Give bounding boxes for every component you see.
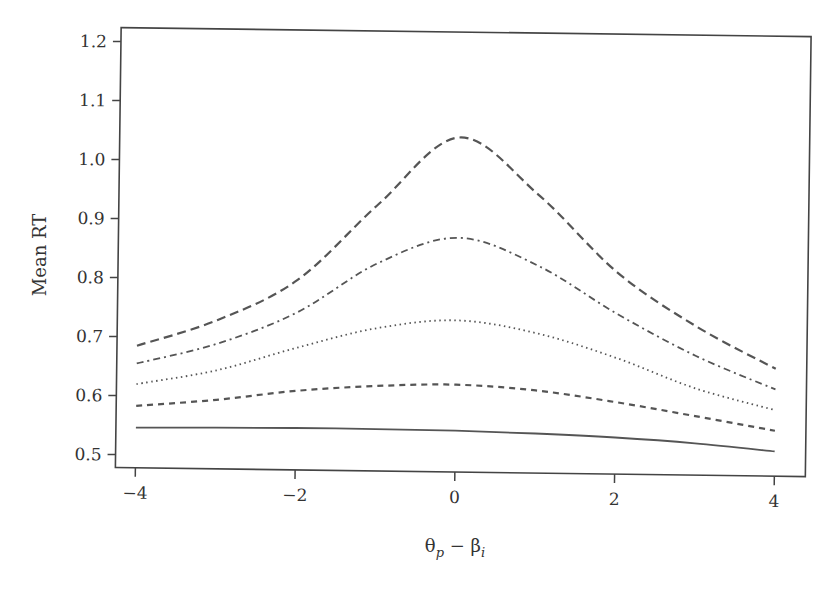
y-tick-label: 0.7 (76, 326, 103, 346)
line-chart: 0.50.60.70.80.91.01.11.2 −4−2024 Mean RT… (0, 0, 827, 596)
x-tick-label: −2 (282, 485, 307, 505)
y-axis-label: Mean RT (29, 214, 50, 296)
x-tick-label: −4 (122, 483, 147, 503)
y-tick-label: 1.2 (80, 31, 107, 51)
x-tick-label: 2 (609, 489, 620, 509)
series-long-dash (137, 133, 779, 369)
series-solid (136, 426, 775, 452)
x-axis-label: θp − βi (425, 535, 485, 560)
x-tick-label: 0 (449, 487, 460, 507)
series-dash-dot (137, 234, 778, 390)
y-tick-label: 1.1 (79, 90, 106, 110)
series-dotted (136, 316, 776, 410)
y-tick-label: 0.5 (74, 444, 101, 464)
y-tick-label: 0.8 (77, 267, 104, 287)
y-tick-label: 0.9 (77, 208, 104, 228)
y-axis: 0.50.60.70.80.91.01.11.2 (74, 31, 121, 465)
series-short-dash (136, 380, 775, 430)
plot-frame (115, 28, 811, 477)
y-tick-label: 0.6 (75, 385, 102, 405)
x-tick-label: 4 (768, 491, 779, 511)
y-tick-label: 1.0 (78, 149, 105, 169)
series-layer (136, 133, 779, 451)
